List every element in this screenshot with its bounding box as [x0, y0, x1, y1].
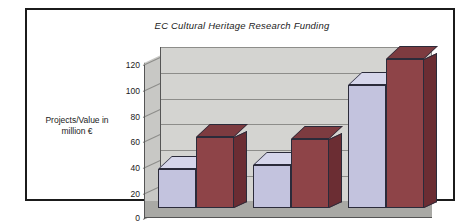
y-tick-label-20: 20 [114, 189, 140, 199]
y-axis-label-line-2: million € [31, 126, 123, 137]
chart-frame: EC Cultural Heritage Research Funding Pr… [25, 8, 455, 201]
bar-front [348, 85, 386, 208]
bar-front [386, 59, 424, 208]
bar-projects-group-2 [253, 165, 291, 208]
chart-title: EC Cultural Heritage Research Funding [27, 20, 457, 31]
bar-front [253, 165, 291, 208]
bar-projects-group-3 [348, 85, 386, 208]
bar-front [158, 169, 196, 208]
bar-projects-group-1 [158, 169, 196, 208]
bar-front [196, 137, 234, 208]
y-axis-front-line [144, 65, 145, 215]
y-axis-label-line-1: Projects/Value in [45, 115, 108, 125]
y-tick-label-40: 40 [114, 163, 140, 173]
bar-value-group-3 [386, 59, 424, 208]
y-axis-label: Projects/Value in million € [31, 115, 123, 137]
y-tick-label-60: 60 [114, 137, 140, 147]
bar-front [291, 139, 329, 208]
y-tick-label-0: 0 [114, 213, 140, 215]
bar-value-group-1 [196, 137, 234, 208]
bar-value-group-2 [291, 139, 329, 208]
y-tick-label-80: 80 [114, 112, 140, 122]
y-tick-label-100: 100 [114, 86, 140, 96]
y-tick-label-120: 120 [114, 60, 140, 70]
bar-side [234, 131, 247, 208]
gridline-120 [160, 47, 432, 48]
bar-side [329, 133, 342, 208]
plot-area: 120 100 80 60 40 20 0 [122, 37, 452, 207]
bar-side [424, 53, 437, 208]
